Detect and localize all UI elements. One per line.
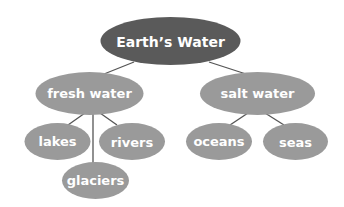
edge-salt-water-seas: [265, 113, 284, 125]
node-label-fresh-water: fresh water: [47, 86, 132, 101]
concept-map: Earth’s Water fresh water salt water lak…: [0, 0, 344, 207]
node-label-lakes: lakes: [38, 134, 76, 149]
node-label-salt-water: salt water: [221, 86, 296, 101]
node-label-root: Earth’s Water: [116, 34, 225, 50]
node-earths-water: Earth’s Water: [101, 17, 241, 65]
node-oceans: oceans: [186, 123, 252, 160]
node-lakes: lakes: [25, 123, 91, 160]
node-glaciers: glaciers: [62, 162, 129, 199]
edge-root-fresh-water: [104, 62, 134, 74]
node-seas: seas: [263, 123, 328, 160]
node-label-oceans: oceans: [193, 134, 244, 149]
node-fresh-water: fresh water: [36, 72, 144, 115]
node-label-seas: seas: [279, 135, 312, 150]
node-label-rivers: rivers: [111, 135, 154, 150]
node-label-glaciers: glaciers: [67, 173, 125, 188]
node-rivers: rivers: [99, 123, 165, 160]
edge-salt-water-oceans: [230, 113, 248, 125]
node-salt-water: salt water: [200, 72, 315, 115]
edge-root-salt-water: [209, 62, 246, 74]
edge-fresh-water-rivers: [100, 113, 117, 125]
